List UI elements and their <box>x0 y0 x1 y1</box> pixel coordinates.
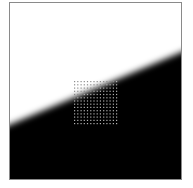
grid-dot <box>97 104 98 105</box>
grid-dot <box>84 120 85 121</box>
grid-dot <box>116 100 117 101</box>
grid-dot <box>84 84 85 85</box>
grid-dot <box>106 113 107 114</box>
grid-dot <box>87 97 88 98</box>
grid-dot <box>110 84 111 85</box>
grid-dot <box>103 117 104 118</box>
grid-dot <box>81 91 82 92</box>
grid-dot <box>103 81 104 82</box>
grid-dot <box>97 100 98 101</box>
grid-dot <box>74 81 75 82</box>
grid-dot <box>113 91 114 92</box>
grid-dot <box>100 84 101 85</box>
grid-dot <box>93 84 94 85</box>
grid-dot <box>90 81 91 82</box>
grid-dot <box>77 84 78 85</box>
grid-dot <box>106 81 107 82</box>
grid-dot <box>87 94 88 95</box>
grid-dot <box>97 110 98 111</box>
grid-dot <box>106 84 107 85</box>
grid-dot <box>110 94 111 95</box>
grid-dot <box>97 81 98 82</box>
grid-dot <box>100 94 101 95</box>
grid-dot <box>106 107 107 108</box>
grid-dot <box>100 100 101 101</box>
grid-dot <box>93 88 94 89</box>
grid-dot <box>84 100 85 101</box>
grid-dot <box>84 117 85 118</box>
grid-dot <box>90 88 91 89</box>
grid-dot <box>81 107 82 108</box>
grid-dot <box>110 100 111 101</box>
grid-dot <box>97 91 98 92</box>
grid-dot <box>87 107 88 108</box>
grid-dot <box>87 88 88 89</box>
grid-dot <box>74 107 75 108</box>
grid-dot <box>116 107 117 108</box>
grid-dot <box>90 84 91 85</box>
grid-dot <box>106 88 107 89</box>
grid-dot <box>93 117 94 118</box>
grid-dot <box>97 94 98 95</box>
grid-dot <box>87 104 88 105</box>
grid-dot <box>74 97 75 98</box>
grid-dot <box>110 113 111 114</box>
grid-dot <box>93 107 94 108</box>
grid-dot <box>81 123 82 124</box>
grid-dot <box>113 104 114 105</box>
grid-dot <box>103 88 104 89</box>
grid-dot <box>93 100 94 101</box>
grid-dot <box>100 113 101 114</box>
grid-dot <box>84 123 85 124</box>
grid-dot <box>93 120 94 121</box>
grid-dot <box>116 81 117 82</box>
grid-dot <box>77 91 78 92</box>
grid-dot <box>103 107 104 108</box>
grid-dot <box>116 117 117 118</box>
grid-dot <box>97 88 98 89</box>
grid-dot <box>103 123 104 124</box>
grid-dot <box>93 94 94 95</box>
grid-dot <box>87 117 88 118</box>
grid-dot <box>93 113 94 114</box>
grid-dot <box>103 110 104 111</box>
grid-dot <box>77 104 78 105</box>
grid-dot <box>90 100 91 101</box>
grid-dot <box>113 88 114 89</box>
grid-dot <box>77 97 78 98</box>
grid-dot <box>90 97 91 98</box>
grid-dot <box>110 110 111 111</box>
grid-dot <box>113 110 114 111</box>
grid-dot <box>100 91 101 92</box>
edge-image <box>10 3 181 179</box>
grid-dot <box>100 104 101 105</box>
grid-dot <box>81 94 82 95</box>
grid-dot <box>84 110 85 111</box>
grid-dot <box>81 120 82 121</box>
grid-dot <box>116 110 117 111</box>
grid-dot <box>81 104 82 105</box>
grid-dot <box>74 123 75 124</box>
grid-dot <box>74 100 75 101</box>
grid-dot <box>113 123 114 124</box>
grid-dot <box>113 81 114 82</box>
grid-dot <box>87 91 88 92</box>
grid-dot <box>81 117 82 118</box>
grid-dot <box>84 88 85 89</box>
grid-dot <box>90 120 91 121</box>
grid-dot <box>100 97 101 98</box>
grid-dot <box>113 100 114 101</box>
grid-dot <box>116 104 117 105</box>
grid-dot <box>84 94 85 95</box>
grid-dot <box>90 94 91 95</box>
grid-dot <box>106 91 107 92</box>
grid-dot <box>97 120 98 121</box>
grid-dot <box>116 120 117 121</box>
grid-dot <box>74 113 75 114</box>
grid-dot <box>106 94 107 95</box>
grid-dot <box>87 110 88 111</box>
grid-dot <box>113 107 114 108</box>
grid-dot <box>93 104 94 105</box>
grid-dot <box>103 97 104 98</box>
grid-dot <box>110 81 111 82</box>
